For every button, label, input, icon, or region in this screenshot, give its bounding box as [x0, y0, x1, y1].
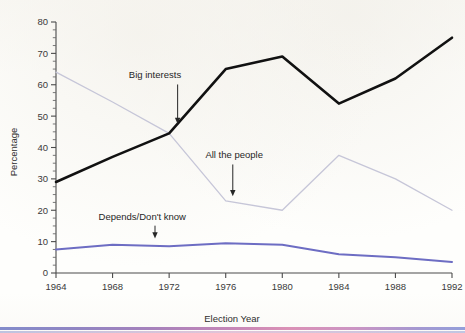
x-axis-tick-labels: 19641968197219761980198419881992	[45, 281, 462, 292]
x-axis-title: Election Year	[204, 313, 259, 324]
line-chart: 01020304050607080 1964196819721976198019…	[0, 0, 465, 333]
x-tick-label: 1968	[102, 281, 123, 292]
y-axis-ticks	[51, 22, 56, 273]
x-tick-label: 1988	[385, 281, 406, 292]
y-tick-label: 40	[37, 142, 48, 153]
x-tick-label: 1964	[45, 281, 66, 292]
x-tick-label: 1972	[159, 281, 180, 292]
y-tick-label: 10	[37, 236, 48, 247]
y-tick-label: 50	[37, 111, 48, 122]
x-axis-ticks	[56, 273, 452, 278]
y-tick-label: 30	[37, 173, 48, 184]
x-tick-label: 1980	[272, 281, 293, 292]
series-line-all-the-people	[56, 72, 452, 210]
annotation-arrow-head	[152, 232, 157, 238]
series-line-depends-don-t-know	[56, 243, 452, 262]
annotation-label: Depends/Don't know	[99, 211, 187, 222]
y-axis-tick-labels: 01020304050607080	[37, 16, 48, 278]
y-tick-label: 0	[43, 267, 48, 278]
y-tick-label: 70	[37, 48, 48, 59]
annotation-label: All the people	[205, 149, 263, 160]
y-tick-label: 20	[37, 205, 48, 216]
y-tick-label: 80	[37, 16, 48, 27]
y-axis-title: Percentage	[8, 128, 19, 177]
x-tick-label: 1976	[215, 281, 236, 292]
annotation-label: Big interests	[129, 69, 182, 80]
chart-page: 01020304050607080 1964196819721976198019…	[0, 0, 465, 333]
annotations-group: Big interestsAll the peopleDepends/Don't…	[99, 69, 263, 238]
annotation-arrow-head	[230, 190, 235, 196]
y-tick-label: 60	[37, 79, 48, 90]
x-tick-label: 1992	[441, 281, 462, 292]
bottom-gradient-rule	[0, 327, 465, 330]
x-tick-label: 1984	[328, 281, 349, 292]
